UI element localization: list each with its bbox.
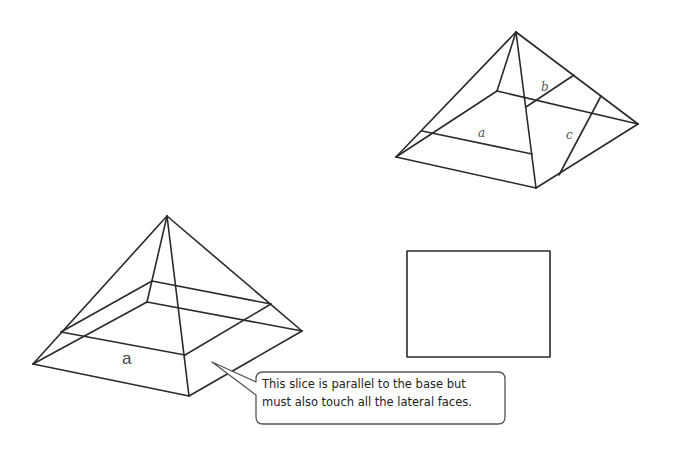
base-back-left-edge bbox=[396, 91, 497, 157]
top-right-pyramid: a b c bbox=[396, 32, 638, 188]
diagram-canvas: a b c a This slice is p bbox=[0, 0, 675, 449]
lateral-edge-left bbox=[33, 216, 167, 364]
lateral-edge-back bbox=[147, 216, 167, 302]
slice-back-right bbox=[152, 281, 271, 304]
callout-text: This slice is parallel to the base but m… bbox=[262, 375, 502, 411]
lateral-edge-front bbox=[516, 32, 536, 188]
base-front-right-edge bbox=[536, 124, 638, 188]
label-c: c bbox=[566, 128, 573, 142]
lateral-edge-right bbox=[167, 216, 302, 331]
label-a: a bbox=[122, 349, 132, 368]
slice-a-front bbox=[422, 131, 532, 154]
label-a: a bbox=[478, 126, 485, 140]
base-back-right-edge bbox=[147, 302, 302, 331]
callout-line-1: This slice is parallel to the base but bbox=[262, 375, 502, 393]
cross-section-rectangle bbox=[407, 251, 550, 357]
callout-line-2: must also touch all the lateral faces. bbox=[262, 393, 502, 411]
base-front-left-edge bbox=[396, 157, 536, 188]
base-front-left-edge bbox=[33, 364, 189, 396]
bottom-left-pyramid: a bbox=[33, 216, 302, 396]
label-b: b bbox=[541, 80, 549, 94]
slice-b bbox=[526, 75, 574, 107]
